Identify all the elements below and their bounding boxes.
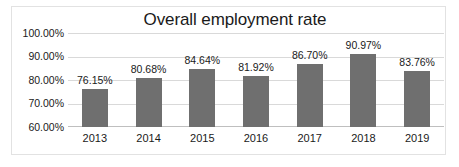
- y-axis-tick-label: 70.00%: [2, 98, 64, 109]
- bar-value-label: 80.68%: [131, 63, 167, 75]
- x-axis-tick-label: 2013: [68, 131, 122, 145]
- bar-group: 80.68%: [122, 33, 176, 127]
- bar-group: 83.76%: [390, 33, 444, 127]
- y-axis-tick-label: 60.00%: [2, 122, 64, 133]
- bar-group: 76.15%: [68, 33, 122, 127]
- x-axis-tick-label: 2018: [337, 131, 391, 145]
- bar[interactable]: [136, 78, 162, 127]
- y-axis-tick-label: 100.00%: [2, 28, 64, 39]
- x-axis-tick-label: 2014: [122, 131, 176, 145]
- bar-value-label: 86.70%: [292, 49, 328, 61]
- bars-layer: 76.15%80.68%84.64%81.92%86.70%90.97%83.7…: [68, 33, 444, 127]
- bar-value-label: 81.92%: [238, 61, 274, 73]
- bar-value-label: 84.64%: [184, 54, 220, 66]
- bar[interactable]: [82, 89, 108, 127]
- x-axis-tick-label: 2017: [283, 131, 337, 145]
- bar-value-label: 90.97%: [346, 39, 382, 51]
- chart-title: Overall employment rate: [70, 10, 400, 30]
- y-axis-tick-label: 80.00%: [2, 75, 64, 86]
- x-axis-tick-label: 2016: [229, 131, 283, 145]
- bar[interactable]: [297, 64, 323, 127]
- bar-value-label: 83.76%: [399, 56, 435, 68]
- bar[interactable]: [243, 76, 269, 128]
- bar[interactable]: [404, 71, 430, 127]
- y-axis: 100.00% 90.00% 80.00% 70.00% 60.00%: [0, 0, 64, 167]
- bar-group: 90.97%: [337, 33, 391, 127]
- x-axis-tick-label: 2019: [390, 131, 444, 145]
- chart-container: Overall employment rate 100.00% 90.00% 8…: [0, 0, 459, 167]
- y-axis-tick-label: 90.00%: [2, 51, 64, 62]
- bar-group: 81.92%: [229, 33, 283, 127]
- bar-value-label: 76.15%: [77, 74, 113, 86]
- bar-group: 86.70%: [283, 33, 337, 127]
- x-axis: 2013201420152016201720182019: [68, 131, 444, 151]
- bar-group: 84.64%: [175, 33, 229, 127]
- plot-area: 76.15%80.68%84.64%81.92%86.70%90.97%83.7…: [68, 33, 444, 127]
- x-axis-tick-label: 2015: [175, 131, 229, 145]
- bar[interactable]: [350, 54, 376, 127]
- bar[interactable]: [189, 69, 215, 127]
